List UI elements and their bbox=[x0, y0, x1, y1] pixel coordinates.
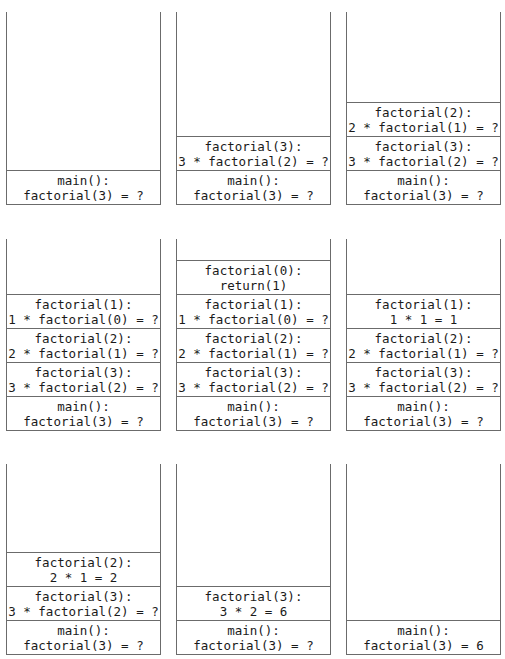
frame-expression: 2 * factorial(1) = ? bbox=[348, 120, 499, 135]
frame-label: main(): bbox=[57, 399, 110, 414]
stack-frame-factorial-1: factorial(1):1 * 1 = 1 bbox=[347, 294, 500, 328]
frame-label: factorial(2): bbox=[205, 331, 303, 346]
frame-label: factorial(1): bbox=[35, 297, 133, 312]
frame-expression: factorial(3) = ? bbox=[193, 638, 313, 653]
frame-label: main(): bbox=[227, 173, 280, 188]
frame-label: factorial(0): bbox=[205, 263, 303, 278]
stack-frame-main: main():factorial(3) = ? bbox=[7, 170, 160, 204]
frame-expression: 3 * factorial(2) = ? bbox=[178, 154, 329, 169]
frame-label: main(): bbox=[397, 173, 450, 188]
stack-frame-factorial-3: factorial(3):3 * factorial(2) = ? bbox=[7, 362, 160, 396]
frame-expression: 2 * factorial(1) = ? bbox=[178, 346, 329, 361]
frame-expression: factorial(3) = ? bbox=[23, 638, 143, 653]
stack-frame-factorial-1: factorial(1):1 * factorial(0) = ? bbox=[177, 294, 330, 328]
frame-expression: factorial(3) = ? bbox=[23, 188, 143, 203]
stack-frame-main: main():factorial(3) = ? bbox=[7, 396, 160, 430]
stack-frame-main: main():factorial(3) = ? bbox=[7, 620, 160, 654]
stack-frame-main: main():factorial(3) = ? bbox=[347, 170, 500, 204]
stack-frame-main: main():factorial(3) = ? bbox=[177, 396, 330, 430]
stack-frame-factorial-3: factorial(3):3 * 2 = 6 bbox=[177, 586, 330, 620]
frame-expression: 3 * factorial(2) = ? bbox=[8, 604, 159, 619]
stack-frame-main: main():factorial(3) = ? bbox=[177, 620, 330, 654]
stack-panel-4: factorial(1):1 * factorial(0) = ? factor… bbox=[6, 239, 161, 431]
frame-label: factorial(3): bbox=[205, 139, 303, 154]
frame-label: main(): bbox=[397, 399, 450, 414]
stack-frame-factorial-3: factorial(3):3 * factorial(2) = ? bbox=[347, 136, 500, 170]
frame-expression: factorial(3) = ? bbox=[23, 414, 143, 429]
stack-frame-factorial-2: factorial(2):2 * factorial(1) = ? bbox=[177, 328, 330, 362]
frame-label: factorial(3): bbox=[375, 139, 473, 154]
frame-label: factorial(3): bbox=[205, 365, 303, 380]
frame-label: factorial(3): bbox=[205, 589, 303, 604]
stack-frame-main: main():factorial(3) = ? bbox=[177, 170, 330, 204]
stack-panel-2: factorial(3):3 * factorial(2) = ? main()… bbox=[176, 12, 331, 205]
frame-label: factorial(1): bbox=[205, 297, 303, 312]
frame-expression: 3 * factorial(2) = ? bbox=[178, 380, 329, 395]
frame-expression: 3 * 2 = 6 bbox=[220, 604, 288, 619]
stack-frame-factorial-2: factorial(2):2 * factorial(1) = ? bbox=[347, 328, 500, 362]
stack-frame-main: main():factorial(3) = 6 bbox=[347, 620, 500, 654]
stack-panel-5: factorial(0):return(1) factorial(1):1 * … bbox=[176, 239, 331, 431]
stack-frame-factorial-2: factorial(2):2 * factorial(1) = ? bbox=[347, 102, 500, 136]
stack-frame-factorial-3: factorial(3):3 * factorial(2) = ? bbox=[177, 362, 330, 396]
frame-label: factorial(1): bbox=[375, 297, 473, 312]
frame-label: factorial(2): bbox=[35, 555, 133, 570]
frame-expression: factorial(3) = ? bbox=[363, 188, 483, 203]
stack-frame-factorial-0: factorial(0):return(1) bbox=[177, 260, 330, 294]
frame-label: factorial(2): bbox=[375, 331, 473, 346]
frame-expression: 1 * factorial(0) = ? bbox=[8, 312, 159, 327]
frame-expression: 2 * factorial(1) = ? bbox=[8, 346, 159, 361]
frame-expression: factorial(3) = 6 bbox=[363, 638, 483, 653]
frame-expression: 2 * factorial(1) = ? bbox=[348, 346, 499, 361]
stack-panel-6: factorial(1):1 * 1 = 1 factorial(2):2 * … bbox=[346, 239, 501, 431]
frame-label: factorial(3): bbox=[375, 365, 473, 380]
stack-frame-factorial-3: factorial(3):3 * factorial(2) = ? bbox=[347, 362, 500, 396]
stack-panel-7: factorial(2):2 * 1 = 2 factorial(3):3 * … bbox=[6, 464, 161, 655]
stack-frame-main: main():factorial(3) = ? bbox=[347, 396, 500, 430]
frame-expression: 2 * 1 = 2 bbox=[50, 570, 118, 585]
frame-expression: factorial(3) = ? bbox=[363, 414, 483, 429]
frame-label: main(): bbox=[57, 623, 110, 638]
stack-frame-factorial-3: factorial(3):3 * factorial(2) = ? bbox=[177, 136, 330, 170]
frame-label: main(): bbox=[227, 623, 280, 638]
frame-label: main(): bbox=[57, 173, 110, 188]
stack-panel-8: factorial(3):3 * 2 = 6 main():factorial(… bbox=[176, 464, 331, 655]
frame-label: main(): bbox=[397, 623, 450, 638]
frame-expression: 3 * factorial(2) = ? bbox=[348, 380, 499, 395]
stack-panel-1: main():factorial(3) = ? bbox=[6, 12, 161, 205]
stack-frame-factorial-3: factorial(3):3 * factorial(2) = ? bbox=[7, 586, 160, 620]
frame-label: factorial(2): bbox=[375, 105, 473, 120]
stack-frame-factorial-1: factorial(1):1 * factorial(0) = ? bbox=[7, 294, 160, 328]
stack-panel-9: main():factorial(3) = 6 bbox=[346, 464, 501, 655]
frame-label: factorial(2): bbox=[35, 331, 133, 346]
stack-frame-factorial-2: factorial(2):2 * factorial(1) = ? bbox=[7, 328, 160, 362]
frame-label: factorial(3): bbox=[35, 365, 133, 380]
frame-expression: return(1) bbox=[220, 278, 288, 293]
stack-frame-factorial-2: factorial(2):2 * 1 = 2 bbox=[7, 552, 160, 586]
frame-expression: 3 * factorial(2) = ? bbox=[8, 380, 159, 395]
frame-label: main(): bbox=[227, 399, 280, 414]
frame-label: factorial(3): bbox=[35, 589, 133, 604]
frame-expression: 1 * factorial(0) = ? bbox=[178, 312, 329, 327]
frame-expression: 1 * 1 = 1 bbox=[390, 312, 458, 327]
frame-expression: 3 * factorial(2) = ? bbox=[348, 154, 499, 169]
frame-expression: factorial(3) = ? bbox=[193, 414, 313, 429]
frame-expression: factorial(3) = ? bbox=[193, 188, 313, 203]
stack-panel-3: factorial(2):2 * factorial(1) = ? factor… bbox=[346, 12, 501, 205]
